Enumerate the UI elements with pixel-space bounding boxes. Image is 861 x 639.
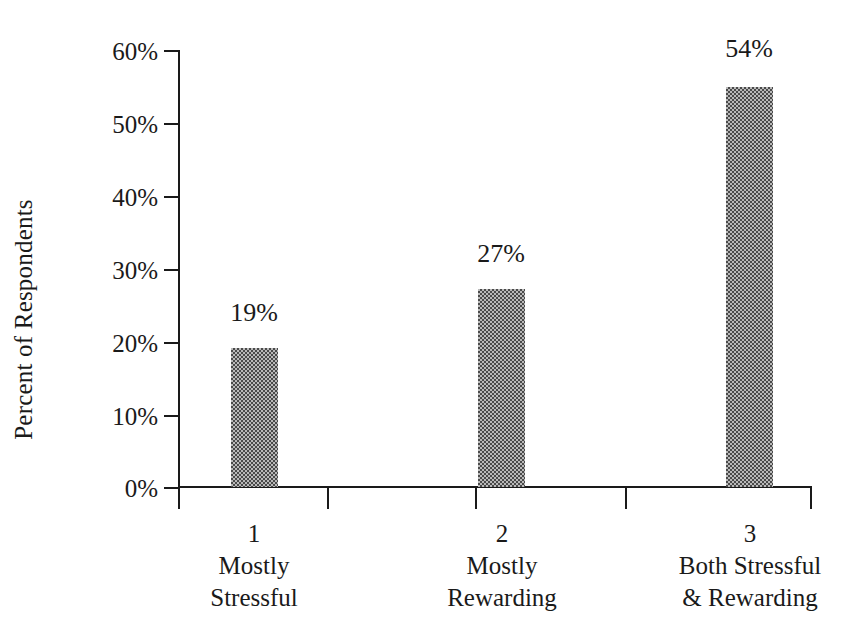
bar-category-1 [231, 348, 278, 487]
y-axis-line [178, 50, 180, 488]
bar-category-2 [478, 289, 525, 487]
y-tick-label-50: 50% [62, 111, 158, 137]
x-category-label-3: 3 Both Stressful & Rewarding [645, 518, 855, 614]
y-tick-label-60: 60% [62, 38, 158, 64]
x-category-sublabel-3-line-1: Both Stressful [645, 550, 855, 582]
y-tick-mark-0 [164, 487, 179, 489]
y-tick-label-text: 30% [68, 258, 158, 283]
x-tick-mark-1 [327, 487, 329, 509]
bar-category-3 [726, 87, 773, 487]
x-tick-mark-2 [475, 487, 477, 509]
x-category-label-1: 1 Mostly Stressful [149, 518, 359, 614]
x-tick-mark-0 [178, 487, 180, 509]
y-tick-mark-10 [164, 415, 179, 417]
bar-value-label-3: 54% [679, 36, 819, 62]
x-category-number-2: 2 [397, 518, 607, 550]
y-tick-label-0: 0% [62, 475, 158, 501]
x-category-label-2: 2 Mostly Rewarding [397, 518, 607, 614]
y-tick-label-20: 20% [62, 330, 158, 356]
y-tick-mark-50 [164, 123, 179, 125]
y-tick-label-text: 60% [68, 39, 158, 64]
bar-chart-figure: Percent of Respondents 60% 50% 40% 30% 2… [0, 0, 861, 639]
x-category-sublabel-2-line-1: Mostly [397, 550, 607, 582]
y-tick-label-text: 10% [68, 404, 158, 429]
y-tick-label-text: 0% [68, 476, 158, 501]
y-tick-label-40: 40% [62, 184, 158, 210]
x-tick-mark-3 [625, 487, 627, 509]
x-category-sublabel-3-line-2: & Rewarding [645, 582, 855, 614]
y-tick-mark-20 [164, 342, 179, 344]
y-tick-mark-60 [164, 50, 179, 52]
y-tick-label-10: 10% [62, 403, 158, 429]
x-category-number-3: 3 [645, 518, 855, 550]
x-category-sublabel-1-line-1: Mostly [149, 550, 359, 582]
x-category-sublabel-1-line-2: Stressful [149, 582, 359, 614]
y-tick-label-text: 40% [68, 185, 158, 210]
bar-value-label-1: 19% [184, 300, 324, 326]
y-tick-label-text: 20% [68, 331, 158, 356]
y-axis-title: Percent of Respondents [0, 0, 48, 639]
y-tick-mark-30 [164, 269, 179, 271]
x-category-sublabel-2-line-2: Rewarding [397, 582, 607, 614]
y-tick-mark-40 [164, 196, 179, 198]
bar-value-label-2: 27% [431, 241, 571, 267]
y-tick-label-text: 50% [68, 112, 158, 137]
x-category-number-1: 1 [149, 518, 359, 550]
y-tick-label-30: 30% [62, 257, 158, 283]
x-tick-mark-4 [810, 487, 812, 509]
